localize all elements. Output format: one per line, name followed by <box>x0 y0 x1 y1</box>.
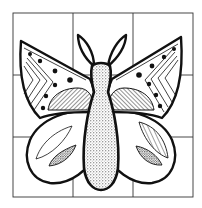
antennae <box>78 35 126 66</box>
butterfly-grid-drawing <box>0 0 202 208</box>
